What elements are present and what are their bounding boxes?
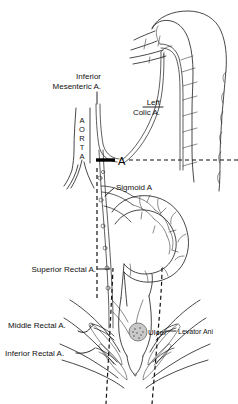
levator-ani-label: Levator Ani — [178, 328, 213, 335]
label-inferior-mesenteric: Inferior Mesenteric A. — [53, 72, 102, 104]
aorta-label: A O R T A — [79, 116, 85, 161]
inferior-rectal-label: Inferior Rectal A. — [5, 349, 64, 358]
level-marker-a: A — [96, 155, 238, 167]
ulcer-lesion — [129, 323, 147, 341]
left-colic-line1: Left — [147, 98, 161, 107]
descending-colon-outline — [130, 11, 226, 191]
label-superior-rectal: Superior Rectal A. — [32, 265, 110, 274]
label-ulcer: Ulcer — [148, 328, 167, 337]
label-left-colic: Left Colic A. — [133, 98, 163, 117]
inferior-mesenteric-artery — [96, 104, 119, 328]
label-middle-rectal: Middle Rectal A. — [8, 321, 91, 332]
aorta-letter-t: T — [80, 143, 85, 152]
levator-ani-muscles — [60, 300, 210, 388]
inferior-mesenteric-line1: Inferior — [76, 72, 101, 81]
inferior-mesenteric-line2: Mesenteric A. — [53, 82, 101, 91]
arterial-supply-diagram: A O R T A A — [0, 0, 238, 404]
ulcer-label: Ulcer — [148, 328, 167, 337]
superior-rectal-label: Superior Rectal A. — [32, 265, 96, 274]
label-inferior-rectal: Inferior Rectal A. — [5, 348, 95, 358]
aorta-letter-a2: A — [79, 152, 84, 161]
aorta-letter-a1: A — [79, 116, 84, 125]
sigmoid-colon-outline — [112, 196, 189, 306]
sigmoid-label: Sigmoid A — [116, 183, 153, 192]
middle-rectal-label: Middle Rectal A. — [8, 321, 66, 330]
left-colic-line2: Colic A. — [133, 108, 160, 117]
sigmoid-leader — [105, 188, 114, 196]
aorta-letter-o: O — [79, 125, 85, 134]
anatomical-figure: A O R T A A — [0, 0, 238, 404]
aorta-letter-r: R — [79, 134, 85, 143]
level-marker-label: A — [118, 155, 126, 167]
